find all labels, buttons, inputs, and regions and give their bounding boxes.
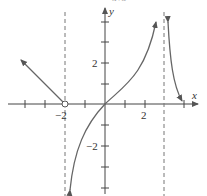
- x-tick-label-2: 2: [141, 109, 147, 121]
- y-tick-label-neg2: −2: [86, 140, 98, 152]
- y-tick-label-2: 2: [92, 57, 98, 69]
- middle-branch: [70, 22, 156, 190]
- open-point: [62, 101, 68, 107]
- x-tick-label-neg2: −2: [55, 109, 67, 121]
- right-branch: [168, 22, 182, 101]
- y-axis-label: y: [108, 5, 114, 17]
- left-ray: [21, 60, 63, 102]
- function-graph: y x −2 2 2 −2: [0, 0, 207, 196]
- x-axis-label: x: [191, 89, 197, 101]
